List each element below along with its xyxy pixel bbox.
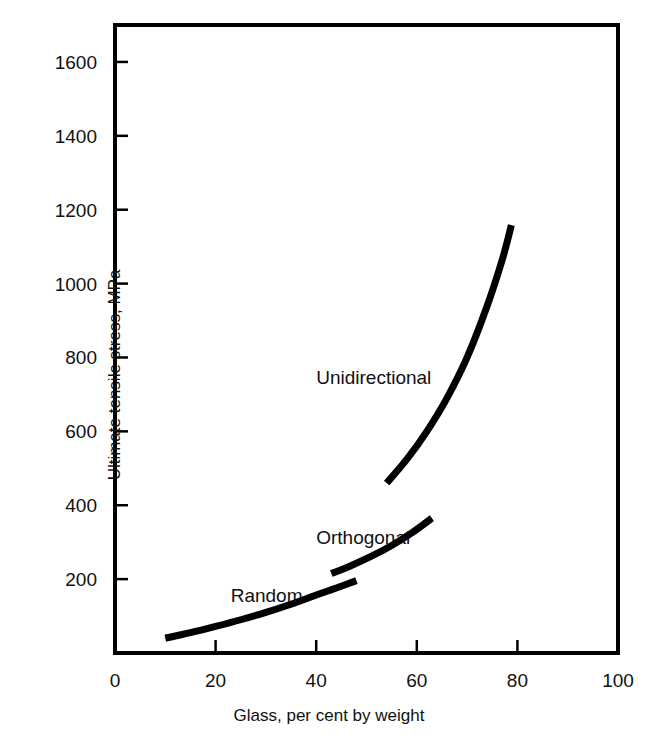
series-curve-unidirectional bbox=[387, 225, 512, 483]
y-tick-label: 600 bbox=[0, 422, 97, 441]
x-tick-label: 20 bbox=[205, 671, 226, 690]
chart-figure: 2004006008001000120014001600 02040608010… bbox=[0, 0, 658, 749]
series-label-unidirectional: Unidirectional bbox=[316, 368, 431, 387]
x-tick-label: 80 bbox=[507, 671, 528, 690]
y-tick-label: 1200 bbox=[0, 200, 97, 219]
y-tick-label: 400 bbox=[0, 496, 97, 515]
series-label-random: Random bbox=[231, 586, 303, 605]
y-axis-title: Ultimate tensile stress, MPa bbox=[105, 269, 125, 480]
x-tick-label: 60 bbox=[406, 671, 427, 690]
x-tick-label: 0 bbox=[110, 671, 121, 690]
data-series-group bbox=[165, 225, 511, 638]
y-tick-label: 1000 bbox=[0, 274, 97, 293]
series-label-orthogonal: Orthogonal bbox=[316, 528, 410, 547]
y-tick-label: 200 bbox=[0, 570, 97, 589]
x-tick-label: 40 bbox=[306, 671, 327, 690]
y-tick-label: 800 bbox=[0, 348, 97, 367]
axis-ticks bbox=[115, 62, 517, 653]
x-axis-title: Glass, per cent by weight bbox=[0, 706, 658, 726]
y-tick-label: 1600 bbox=[0, 52, 97, 71]
y-tick-label: 1400 bbox=[0, 126, 97, 145]
x-tick-label: 100 bbox=[602, 671, 634, 690]
